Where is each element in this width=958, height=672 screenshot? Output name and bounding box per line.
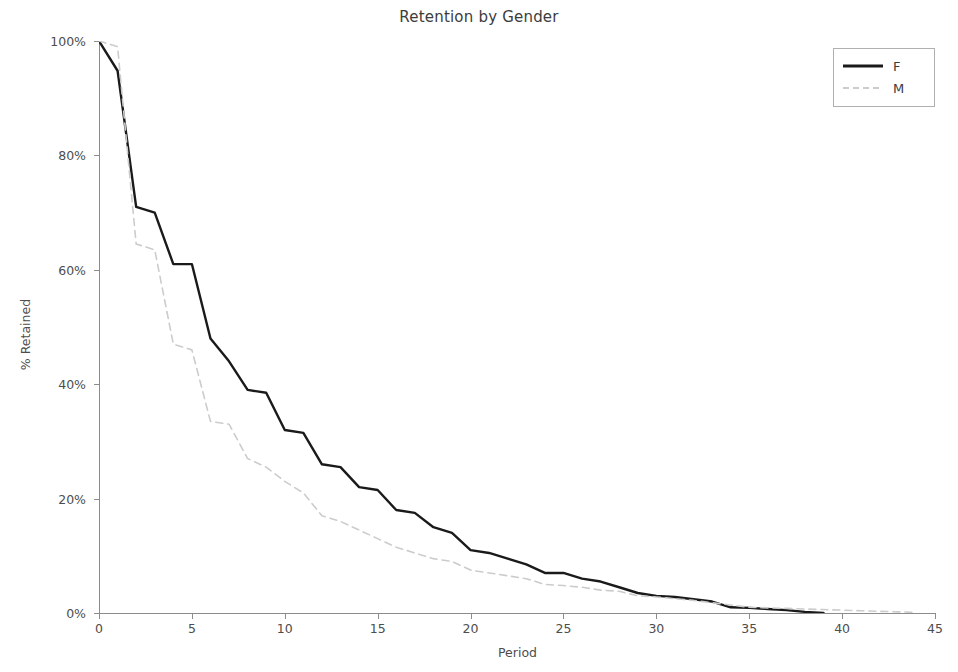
x-tick-label: 5 [188, 621, 196, 636]
x-tick-label: 25 [555, 621, 571, 636]
series-line-m [99, 41, 916, 612]
legend-item-m[interactable]: M [842, 77, 926, 99]
x-tick-mark [656, 614, 657, 619]
x-tick-label: 10 [277, 621, 293, 636]
series-line-f [99, 41, 824, 613]
x-tick-mark [192, 614, 193, 619]
y-tick-label: 100% [50, 34, 86, 49]
legend-line-f-icon [842, 60, 884, 72]
y-tick-label: 80% [58, 148, 86, 163]
x-tick-label: 15 [370, 621, 386, 636]
y-tick-label: 40% [58, 377, 86, 392]
x-tick-label: 40 [834, 621, 850, 636]
x-tick-label: 0 [95, 621, 103, 636]
x-tick-mark [842, 614, 843, 619]
legend-label-m: M [893, 82, 904, 95]
x-tick-mark [471, 614, 472, 619]
series-lines [99, 41, 935, 613]
legend-line-m-icon [842, 82, 884, 94]
x-tick-mark [99, 614, 100, 619]
x-tick-mark [285, 614, 286, 619]
x-tick-mark [935, 614, 936, 619]
y-axis-label: % Retained [18, 255, 33, 415]
y-tick-label: 20% [58, 491, 86, 506]
x-tick-label: 20 [463, 621, 479, 636]
x-tick-label: 45 [927, 621, 943, 636]
x-axis-line [99, 613, 936, 614]
plot-area [99, 41, 935, 613]
x-tick-mark [563, 614, 564, 619]
chart-figure: Retention by Gender 0%20%40%60%80%100% 0… [0, 0, 958, 672]
legend-label-f: F [893, 60, 900, 73]
legend-box: F M [833, 48, 935, 107]
y-tick-label: 0% [66, 606, 86, 621]
y-tick-label: 60% [58, 262, 86, 277]
x-tick-label: 30 [648, 621, 664, 636]
x-tick-mark [749, 614, 750, 619]
x-tick-mark [378, 614, 379, 619]
legend-item-f[interactable]: F [842, 55, 926, 77]
x-tick-label: 35 [741, 621, 757, 636]
x-axis-label: Period [99, 645, 936, 660]
chart-title: Retention by Gender [0, 8, 958, 26]
